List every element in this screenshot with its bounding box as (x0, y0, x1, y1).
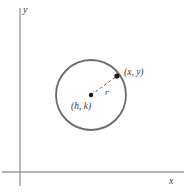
radius-label: r (105, 88, 109, 97)
circle-diagram-figure: y x (x, y) (h, k) r (0, 0, 184, 196)
point-xy-label: (x, y) (124, 68, 144, 78)
x-axis-label: x (169, 176, 173, 186)
diagram-canvas (0, 0, 184, 196)
center-point-dot (89, 93, 93, 97)
circle-point-dot (114, 73, 119, 78)
center-hk-label: (h, k) (71, 102, 91, 112)
y-axis-label: y (23, 5, 27, 15)
radius-line (91, 76, 117, 95)
